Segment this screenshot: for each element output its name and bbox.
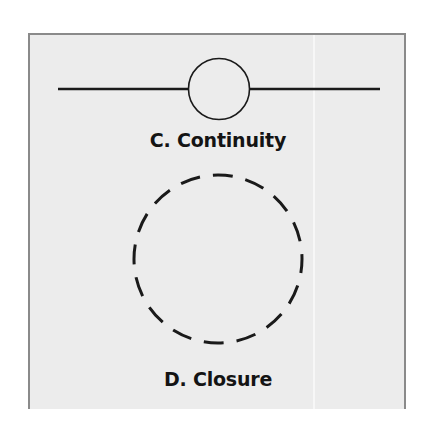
closure-illustration	[134, 175, 302, 343]
closure-label: D. Closure	[28, 368, 408, 390]
continuity-illustration	[58, 59, 380, 120]
gestalt-figure	[0, 0, 430, 431]
closure-dashed-circle	[134, 175, 302, 343]
continuity-label: C. Continuity	[28, 129, 408, 151]
continuity-circle	[189, 59, 250, 120]
